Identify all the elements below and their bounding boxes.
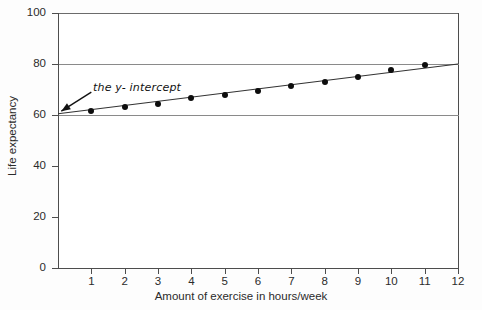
data-layer	[0, 0, 482, 310]
data-point	[422, 62, 428, 68]
data-point	[222, 92, 228, 98]
chart-container: 020406080100 123456789101112 the y- inte…	[0, 0, 482, 310]
data-point	[355, 74, 361, 80]
y-axis-title: Life expectancy	[6, 61, 18, 211]
data-point	[322, 79, 328, 85]
data-point	[288, 83, 294, 89]
annotation-label: the y- intercept	[93, 81, 181, 94]
data-point	[155, 101, 161, 107]
x-axis-title: Amount of exercise in hours/week	[0, 290, 482, 302]
annotation-arrow-icon	[61, 92, 91, 111]
data-point	[255, 88, 261, 94]
